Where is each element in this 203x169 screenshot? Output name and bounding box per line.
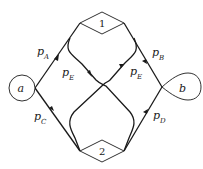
label-pC: p C [34,110,47,126]
label-pD: p D [153,109,166,125]
label-pB: p B [152,46,164,62]
label-pE-left: p E [62,66,74,82]
svg-text:p: p [34,110,41,123]
svg-text:D: D [159,117,166,125]
svg-text:C: C [41,118,47,126]
svg-text:E: E [68,74,74,82]
node-2-label: 2 [99,146,105,157]
node-1-label: 1 [99,18,105,29]
svg-text:p: p [62,66,69,79]
arrow-pD [143,109,148,114]
svg-text:A: A [43,53,49,61]
svg-text:p: p [152,46,159,59]
svg-text:p: p [37,45,44,58]
edge-pE-1-to-2 [68,38,134,151]
label-pA: p A [37,45,49,61]
edge-pE-2-to-1 [70,38,137,151]
svg-text:E: E [136,73,142,81]
svg-text:p: p [130,65,137,78]
network-diagram: a b 1 2 p A p E p C p B p E p D [0,0,203,169]
svg-text:p: p [153,109,160,122]
svg-text:B: B [158,54,164,62]
label-pE-right: p E [130,65,142,81]
node-a-label: a [18,82,25,95]
node-b-label: b [179,82,186,95]
